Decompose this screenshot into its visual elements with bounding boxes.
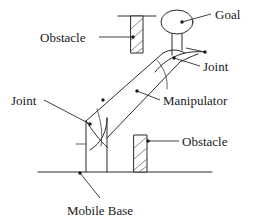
label-obstacle-bottom: Obstacle bbox=[182, 134, 228, 149]
label-goal: Goal bbox=[215, 7, 241, 22]
leader-obstacle-bottom bbox=[146, 139, 179, 142]
leader-obstacle-top bbox=[99, 35, 135, 38]
leader-joint-base bbox=[44, 100, 92, 126]
leader-mobile-base bbox=[78, 171, 100, 198]
diagram-root: Obstacle Goal Joint Joint Manipulator Ob… bbox=[0, 0, 260, 223]
label-joint-wrist: Joint bbox=[203, 59, 229, 74]
label-mobile-base: Mobile Base bbox=[67, 203, 133, 218]
label-joint-base: Joint bbox=[11, 93, 37, 108]
obstacle-top-shape bbox=[131, 16, 143, 53]
obstacle-bottom-shape bbox=[134, 135, 147, 172]
label-manipulator: Manipulator bbox=[163, 93, 228, 108]
manipulator-diagram: Obstacle Goal Joint Joint Manipulator Ob… bbox=[0, 0, 260, 223]
mobile-base-shape bbox=[76, 118, 107, 172]
label-obstacle-top: Obstacle bbox=[40, 30, 86, 45]
